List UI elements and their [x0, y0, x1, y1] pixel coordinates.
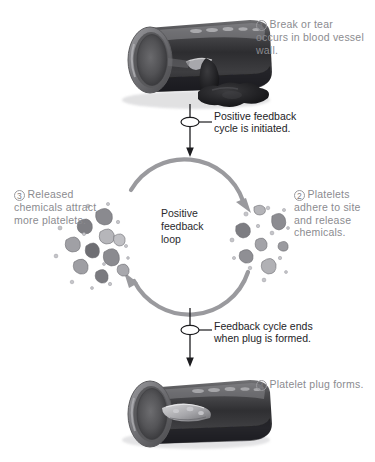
- feedback-loop-diagram: 1Break or tear occurs in blood vessel wa…: [0, 0, 375, 462]
- blood-vessel-torn-image: [122, 20, 272, 109]
- step-number-badge-1: 1: [256, 20, 267, 31]
- callout-cycle-initiated-line2: cycle is initiated.: [214, 122, 364, 134]
- callout-cycle-ends: Feedback cycle ends when plug is formed.: [214, 320, 372, 345]
- blood-vessel-plugged-image: [122, 380, 272, 449]
- callout-cycle-initiated-line1: Positive feedback: [214, 110, 364, 122]
- loop-center-line1: Positive: [161, 207, 231, 220]
- step-text-4: Platelet plug forms.: [270, 378, 364, 390]
- loop-center-line3: loop: [161, 233, 231, 246]
- flow-arrow-bottom: [181, 308, 212, 367]
- step-text-1: Break or tear occurs in blood vessel wal…: [256, 18, 364, 56]
- step-label-3: 3Released chemicals attract more platele…: [14, 188, 100, 226]
- callout-cycle-ends-line2: when plug is formed.: [214, 332, 372, 344]
- callout-cycle-ends-line1: Feedback cycle ends: [214, 320, 372, 332]
- callout-cycle-initiated: Positive feedback cycle is initiated.: [214, 110, 364, 135]
- loop-center-label: Positive feedback loop: [161, 207, 231, 246]
- flow-arrow-top: [181, 104, 212, 157]
- step-number-badge-4: 4: [256, 380, 267, 391]
- step-number-badge-2: 2: [294, 190, 305, 201]
- step-label-4: 4Platelet plug forms.: [256, 378, 368, 391]
- step-label-2: 2Platelets adhere to site and release ch…: [294, 188, 374, 239]
- step-text-3: Released chemicals attract more platelet…: [14, 188, 96, 226]
- loop-center-line2: feedback: [161, 220, 231, 233]
- platelet-cluster-right: [230, 205, 290, 282]
- step-label-1: 1Break or tear occurs in blood vessel wa…: [256, 18, 368, 56]
- step-number-badge-3: 3: [14, 190, 25, 201]
